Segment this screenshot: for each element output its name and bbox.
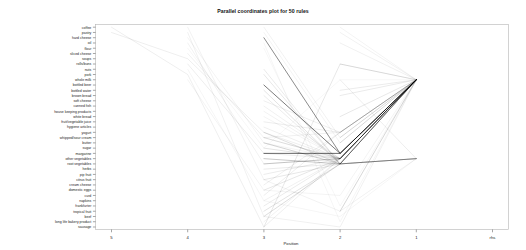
y-axis-tick-label: long life bakery product bbox=[55, 220, 91, 224]
y-axis-tick-label: pip fruit bbox=[80, 173, 92, 177]
y-axis-tick-label: pork bbox=[84, 73, 91, 77]
y-axis-tick-label: rolls/buns bbox=[76, 62, 91, 66]
chart-title: Parallel coordinates plot for 50 rules bbox=[217, 8, 309, 14]
y-axis-tick-label: flour bbox=[84, 47, 92, 51]
y-axis-tick-label: nuts bbox=[85, 68, 92, 72]
y-axis-tick-label: soft cheese bbox=[73, 99, 91, 103]
y-axis-tick-label: yogurt bbox=[82, 131, 92, 135]
y-axis-tick-label: citrus fruit bbox=[76, 178, 91, 182]
y-axis-tick-label: frankfurter bbox=[75, 204, 92, 208]
y-axis-tick-label: sugar bbox=[83, 146, 93, 150]
y-axis-tick-label: napkins bbox=[79, 199, 91, 203]
y-axis-tick-label: whole milk bbox=[75, 78, 92, 82]
y-axis-tick-label: soups bbox=[82, 57, 92, 61]
chart-svg: Parallel coordinates plot for 50 rules c… bbox=[0, 0, 526, 250]
y-axis-tick-label: herbs bbox=[83, 167, 92, 171]
x-axis-tick-label: rhs bbox=[490, 235, 496, 240]
y-axis-tick-label: sausage bbox=[78, 225, 91, 229]
y-axis-tick-label: hygiene articles bbox=[67, 125, 92, 129]
y-axis-tick-label: oil bbox=[88, 41, 92, 45]
y-axis-tick-label: canned fish bbox=[73, 104, 91, 108]
parallel-coordinates-figure: Parallel coordinates plot for 50 rules c… bbox=[0, 0, 526, 250]
y-axis-tick-label: hard cheese bbox=[72, 36, 91, 40]
y-axis-tick-label: coffee bbox=[82, 26, 92, 30]
y-axis-tick-label: white bread bbox=[73, 115, 91, 119]
y-axis-tick-label: beef bbox=[84, 215, 91, 219]
y-axis-tick-label: curd bbox=[84, 194, 91, 198]
y-axis-tick-label: bottled water bbox=[71, 89, 92, 93]
y-axis-tick-label: fruit/vegetable juice bbox=[61, 120, 91, 124]
y-axis-tick-label: brown bread bbox=[72, 94, 92, 98]
y-axis-tick-label: house keeping products bbox=[54, 110, 91, 114]
y-axis-tick-label: pastry bbox=[82, 31, 92, 35]
y-axis-tick-label: cream cheese bbox=[69, 183, 91, 187]
y-axis-tick-label: domestic eggs bbox=[69, 188, 92, 192]
y-axis-tick-label: bottled beer bbox=[73, 83, 92, 87]
y-axis-tick-label: butter bbox=[82, 141, 92, 145]
y-axis-tick-label: sliced cheese bbox=[70, 52, 91, 56]
y-axis-tick-label: root vegetables bbox=[67, 162, 91, 166]
y-axis-tick-label: whipped/sour cream bbox=[60, 136, 92, 140]
y-axis-tick-label: other vegetables bbox=[65, 157, 91, 161]
y-axis-tick-label: margarine bbox=[76, 152, 92, 156]
y-axis-tick-label: tropical fruit bbox=[73, 210, 91, 214]
x-axis-title: Position bbox=[284, 241, 300, 246]
